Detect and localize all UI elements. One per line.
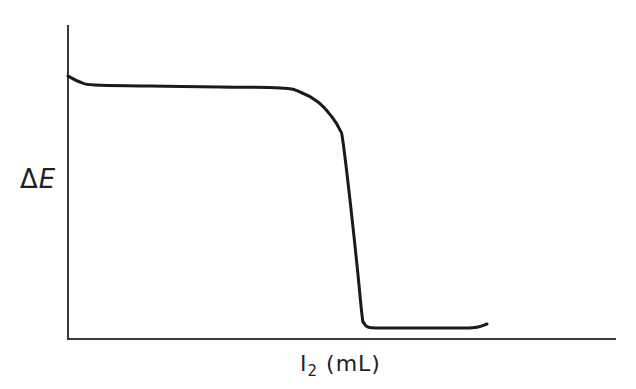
x-axis-label-subscript: 2 [308, 362, 319, 380]
x-axis-label: I2 (mL) [300, 351, 381, 380]
chart-canvas [0, 0, 636, 389]
x-axis-label-main: I [300, 351, 308, 376]
y-axis-label-delta: Δ [20, 164, 39, 194]
y-axis-label: ΔE [20, 164, 56, 194]
titration-curve [68, 76, 487, 328]
x-axis-label-unit: (mL) [326, 351, 381, 376]
y-axis-label-var: E [39, 164, 56, 194]
